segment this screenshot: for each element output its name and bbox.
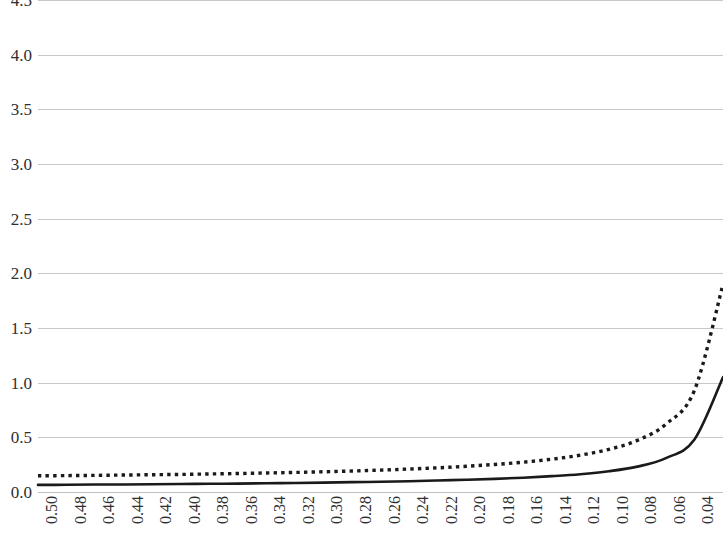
x-tick-label: 0.12 [586,496,602,524]
y-tick-label: 0.0 [11,484,32,501]
x-tick-label: 0.38 [215,496,231,524]
series-line-dashed [38,284,723,476]
x-tick-label: 0.20 [472,496,488,524]
x-axis: 0.500.480.460.440.420.400.380.360.340.32… [38,492,723,552]
x-tick-label: 0.32 [301,496,317,524]
y-tick-label: 2.0 [11,265,32,282]
x-tick-label: 0.36 [244,496,260,524]
y-tick-label: 1.0 [11,374,32,391]
y-tick-label: 4.0 [11,46,32,63]
x-tick-label: 0.24 [415,496,431,524]
x-tick-label: 0.30 [329,496,345,524]
x-tick-label: 0.16 [529,496,545,524]
x-tick-label: 0.22 [444,496,460,524]
x-tick-label: 0.04 [700,496,716,524]
x-tick-label: 0.08 [643,496,659,524]
x-tick-label: 0.40 [187,496,203,524]
x-tick-label: 0.48 [73,496,89,524]
y-axis: 4.54.03.53.02.52.01.51.00.50.0 [0,0,38,552]
x-tick-label: 0.50 [44,496,60,524]
y-tick-label: 3.0 [11,156,32,173]
x-tick-label: 0.10 [615,496,631,524]
x-tick-label: 0.34 [272,496,288,524]
x-tick-label: 0.44 [130,496,146,524]
y-tick-label: 3.5 [11,101,32,118]
x-tick-label: 0.14 [558,496,574,524]
line-chart: 4.54.03.53.02.52.01.51.00.50.0 0.500.480… [0,0,723,552]
y-tick-label: 2.5 [11,210,32,227]
plot-area [38,0,723,492]
x-tick-label: 0.26 [387,496,403,524]
x-tick-label: 0.42 [158,496,174,524]
y-tick-label: 1.5 [11,320,32,337]
series-layer [38,0,723,492]
y-tick-label: 0.5 [11,429,32,446]
x-tick-label: 0.28 [358,496,374,524]
x-tick-label: 0.46 [101,496,117,524]
y-tick-label: 4.5 [11,0,32,9]
x-tick-label: 0.06 [672,496,688,524]
x-tick-label: 0.18 [501,496,517,524]
